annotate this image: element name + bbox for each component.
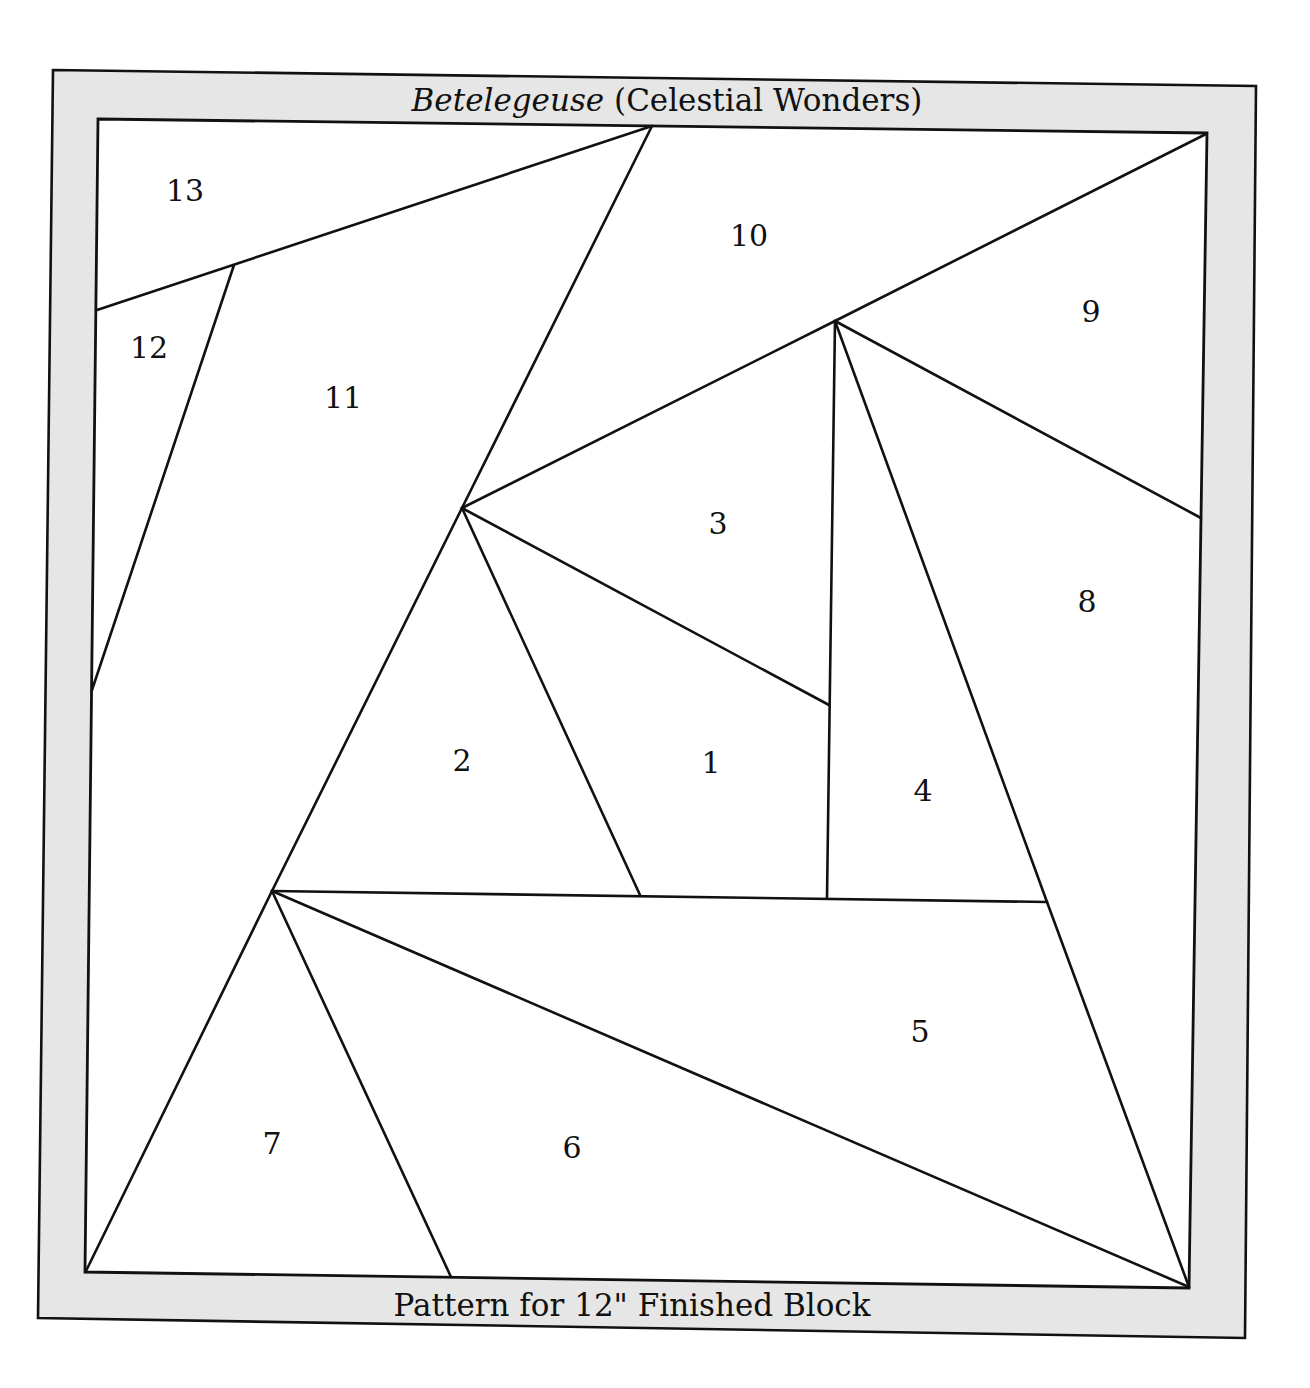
pattern-footer: Pattern for 12" Finished Block [394, 1287, 871, 1323]
piece-label-1: 1 [701, 745, 720, 780]
piece-label-6: 6 [562, 1130, 581, 1165]
title-rest: (Celestial Wonders) [604, 82, 922, 118]
piece-label-7: 7 [262, 1126, 281, 1161]
piece-label-5: 5 [910, 1014, 929, 1049]
piece-label-4: 4 [913, 773, 932, 808]
title-italic: Betelegeuse [411, 82, 605, 118]
piece-label-11: 11 [324, 380, 362, 415]
quilt-pattern-diagram: Betelegeuse (Celestial Wonders) Pattern … [0, 0, 1310, 1388]
pattern-title: Betelegeuse (Celestial Wonders) [411, 82, 923, 118]
piece-label-3: 3 [708, 506, 727, 541]
piece-label-9: 9 [1081, 294, 1100, 329]
block-area [85, 119, 1207, 1288]
piece-label-8: 8 [1077, 584, 1096, 619]
piece-label-13: 13 [166, 173, 204, 208]
piece-label-12: 12 [130, 330, 168, 365]
piece-label-10: 10 [730, 218, 768, 253]
piece-label-2: 2 [452, 743, 471, 778]
